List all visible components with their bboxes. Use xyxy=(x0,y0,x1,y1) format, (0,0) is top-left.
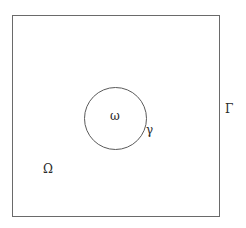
inner-boundary-label: γ xyxy=(146,124,153,136)
domain-diagram: ω γ Γ Ω xyxy=(0,0,246,228)
inner-region-label: ω xyxy=(110,110,120,122)
outer-region-label: Ω xyxy=(43,163,53,175)
outer-boundary-label: Γ xyxy=(225,103,233,115)
